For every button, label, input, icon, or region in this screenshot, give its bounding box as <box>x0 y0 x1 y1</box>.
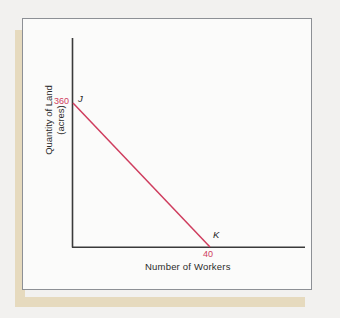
point-label-j: J <box>78 93 83 104</box>
y-axis-title: Quantity of Land (acres) <box>35 65 75 175</box>
y-axis-title-line2: (acres) <box>55 105 67 135</box>
x-value-label-40: 40 <box>203 249 213 259</box>
page-edge-bottom-strip <box>15 297 305 307</box>
figure-root: Quantity of Land (acres) Number of Worke… <box>0 0 340 318</box>
point-label-k: K <box>213 229 219 240</box>
y-value-label-360: 360 <box>54 96 69 106</box>
x-axis-title: Number of Workers <box>145 261 231 272</box>
